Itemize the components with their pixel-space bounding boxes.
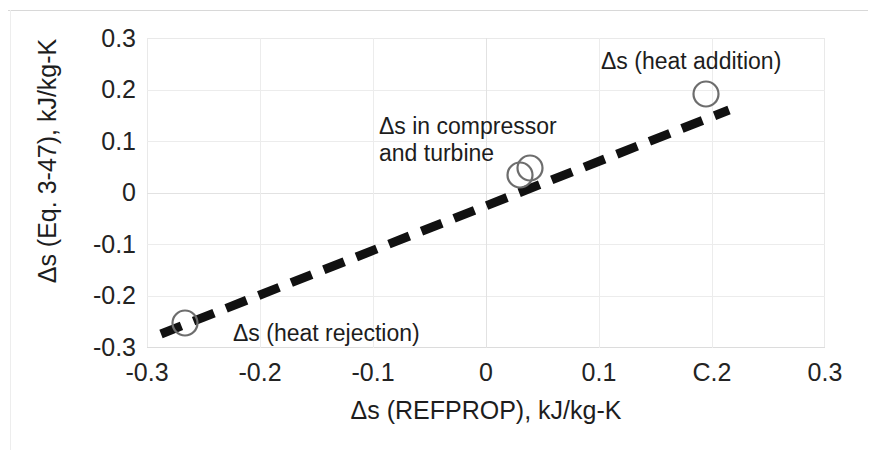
x-tick-label: -0.1 (328, 360, 418, 385)
x-tick-label: -0.3 (102, 360, 192, 385)
y-axis-title: Δs (Eq. 3-47), kJ/kg-K (34, 0, 60, 326)
y-tick-label: -0.2 (0, 283, 136, 308)
y-axis-tick-labels: 0.3 0.2 0.1 0 -0.1 -0.2 -0.3 (0, 0, 136, 457)
y-tick-label: 0.1 (0, 129, 136, 154)
annotation-heat-addition: Δs (heat addition) (601, 48, 781, 75)
y-tick-label: -0.1 (0, 232, 136, 257)
x-tick-label: 0.3 (780, 360, 870, 385)
annotation-compressor-and-turbine: Δs in compressor and turbine (379, 113, 557, 167)
annotation-heat-rejection: Δs (heat rejection) (233, 320, 420, 347)
x-tick-label: C.2 (667, 360, 757, 385)
y-tick-label: 0 (0, 180, 136, 205)
data-point-marker (173, 311, 198, 336)
plot-area (147, 38, 825, 348)
chart-figure: 0.3 0.2 0.1 0 -0.1 -0.2 -0.3 Δs (Eq. 3-4… (0, 0, 870, 457)
y-tick-label: 0.2 (0, 77, 136, 102)
y-tick-label: -0.3 (0, 335, 136, 360)
x-tick-label: -0.2 (215, 360, 305, 385)
x-tick-label: 0 (441, 360, 531, 385)
scan-artifact-top-border (8, 10, 868, 11)
chart-data-layer (147, 38, 825, 348)
data-point-marker (694, 82, 719, 107)
y-tick-label: 0.3 (0, 26, 136, 51)
x-tick-label: 0.1 (554, 360, 644, 385)
x-axis-title: Δs (REFPROP), kJ/kg-K (147, 396, 825, 424)
